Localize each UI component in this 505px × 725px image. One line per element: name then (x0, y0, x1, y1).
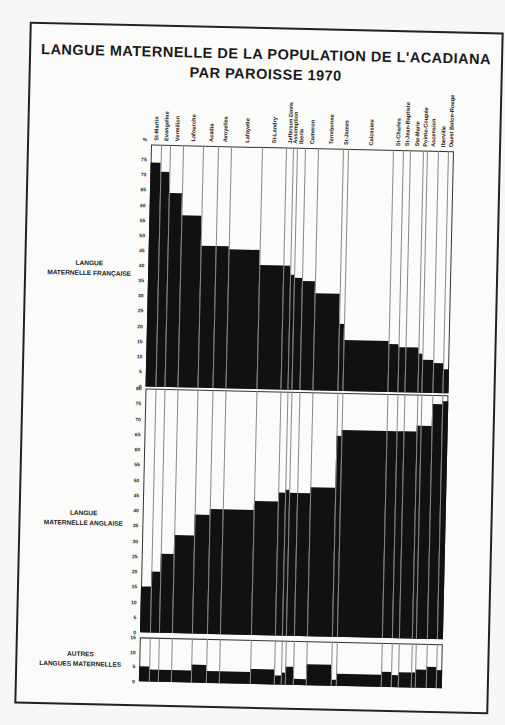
bar-other (219, 671, 250, 683)
y-tick-label: 45 (131, 247, 145, 253)
column-label: St-Landry (271, 117, 278, 143)
bar-other (381, 672, 391, 687)
column-label: Ascension (430, 119, 437, 147)
bar-other (426, 667, 436, 688)
y-tick-label: 45 (125, 492, 139, 498)
plot-area: 0510152025303540455055606570750510152025… (16, 24, 501, 712)
y-tick-label: 75 (127, 400, 141, 406)
column-label: Iberville (440, 126, 446, 147)
bar-other (149, 670, 158, 682)
bar-french (404, 347, 418, 393)
bar-other (415, 670, 426, 688)
y-tick-label: 30 (130, 292, 144, 298)
column-label: Lafayette (244, 118, 251, 143)
y-tick-label: 10 (128, 353, 142, 359)
y-tick-label: 70 (127, 416, 141, 422)
bar-other (306, 665, 331, 686)
bar-other (250, 669, 274, 684)
bar-other (171, 670, 191, 682)
y-tick-label: 55 (131, 217, 145, 223)
y-tick-label: 35 (124, 522, 138, 528)
bar-other (293, 679, 306, 685)
bar-english (337, 429, 387, 637)
y-tick-label: 35 (130, 277, 144, 283)
y-tick-label: 5 (128, 368, 142, 374)
bar-french (343, 339, 389, 391)
column-label: St-James (343, 120, 350, 145)
bar-french (432, 363, 443, 393)
bar-other (398, 673, 411, 688)
column-label: Ste-Marie (414, 121, 421, 146)
y-tick-label: 5 (122, 614, 136, 620)
bar-other (191, 665, 206, 683)
column-label: Iberia (298, 129, 304, 144)
y-tick-label: 80 (127, 385, 141, 391)
bar-french (313, 293, 340, 390)
y-tick-label: 70 (132, 171, 146, 177)
y-tick-label: 5 (121, 663, 135, 669)
column-label: Ouest Baton-Rouge (448, 95, 455, 148)
y-tick-label: 15 (122, 634, 136, 640)
y-tick-label: 25 (124, 553, 138, 559)
y-tick-label: 50 (125, 476, 139, 482)
y-tick-label: 65 (126, 431, 140, 437)
column-label: Pointe-Coupée (422, 107, 429, 147)
column-label: Terrebonne (328, 114, 335, 144)
chart-frame: LANGUE MATERNELLE DE LA POPULATION DE L'… (14, 22, 503, 715)
column-label: Cameron (309, 120, 316, 144)
y-tick-label: 30 (124, 537, 138, 543)
column-label: St-Martin (153, 116, 160, 140)
y-tick-label: 40 (125, 507, 139, 513)
y-axis-unit: % (133, 136, 147, 142)
y-tick-label: 25 (129, 307, 143, 313)
bar-french (421, 359, 433, 393)
column-label: Lafourche (190, 114, 197, 141)
column-label: Acadia (208, 123, 214, 141)
y-tick-label: 20 (123, 568, 137, 574)
bar-english (307, 487, 335, 637)
y-tick-label: 40 (130, 262, 144, 268)
y-tick-label: 0 (121, 678, 135, 684)
column-label: Calcasieu (368, 119, 375, 145)
bar-english (172, 536, 194, 634)
bar-french (257, 265, 284, 390)
y-tick-label: 15 (129, 338, 143, 344)
y-tick-label: 50 (131, 232, 145, 238)
y-tick-label: 20 (129, 323, 143, 329)
column-label: Avoyelles (222, 116, 229, 142)
y-tick-label: 55 (126, 461, 140, 467)
y-tick-label: 75 (133, 156, 147, 162)
bar-other (206, 671, 219, 683)
column-label: St-Jean-Baptiste (404, 102, 411, 146)
bar-english (251, 501, 278, 636)
y-tick-label: 10 (123, 598, 137, 604)
bar-other (158, 670, 171, 682)
column-label: Vermilion (174, 116, 181, 141)
y-tick-label: 10 (121, 649, 135, 655)
y-tick-label: 65 (132, 186, 146, 192)
column-label: Evangeline (163, 111, 170, 141)
y-tick-label: 60 (126, 446, 140, 452)
bar-french (226, 249, 260, 389)
y-tick-label: 60 (132, 202, 146, 208)
bar-other (139, 667, 149, 682)
bar-other (336, 674, 381, 687)
bar-english (220, 509, 254, 635)
column-label: St-Charles (395, 118, 402, 146)
y-tick-label: 15 (123, 583, 137, 589)
